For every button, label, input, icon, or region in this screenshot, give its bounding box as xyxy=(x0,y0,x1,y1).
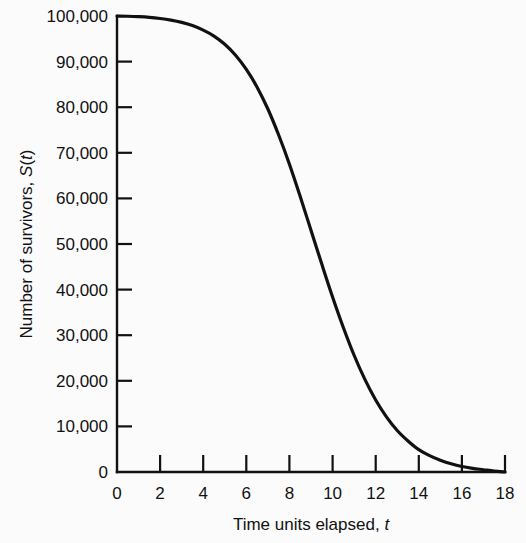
y-axis-title-symbol: S xyxy=(17,165,36,177)
survival-curve-line xyxy=(117,16,505,472)
y-tick-labels: 100,000 90,000 80,000 70,000 60,000 50,0… xyxy=(47,7,108,482)
x-axis-title: Time units elapsed, t xyxy=(233,515,391,534)
x-axis-title-symbol: t xyxy=(384,515,390,534)
y-tick-label: 100,000 xyxy=(47,7,108,26)
y-tick-label: 40,000 xyxy=(56,281,108,300)
x-tick-label: 4 xyxy=(198,484,207,503)
y-tick-label: 80,000 xyxy=(56,98,108,117)
y-tick-label: 10,000 xyxy=(56,417,108,436)
chart-canvas: 100,000 90,000 80,000 70,000 60,000 50,0… xyxy=(0,0,526,543)
y-axis-title-text: Number of survivors, xyxy=(17,177,36,339)
y-tick-label: 90,000 xyxy=(56,53,108,72)
y-tick-label: 50,000 xyxy=(56,235,108,254)
survival-curve-figure: 100,000 90,000 80,000 70,000 60,000 50,0… xyxy=(0,0,526,543)
y-tick-label: 70,000 xyxy=(56,144,108,163)
x-tick-labels: 0 2 4 6 8 10 12 14 16 18 xyxy=(112,484,514,503)
y-tick-label: 0 xyxy=(99,463,108,482)
x-tick-label: 6 xyxy=(242,484,251,503)
x-tick-label: 14 xyxy=(409,484,428,503)
x-tick-label: 16 xyxy=(452,484,471,503)
y-tick-label: 20,000 xyxy=(56,372,108,391)
x-tick-label: 10 xyxy=(323,484,342,503)
x-tick-label: 8 xyxy=(285,484,294,503)
x-axis-title-text: Time units elapsed, xyxy=(233,515,385,534)
x-tick-label: 12 xyxy=(366,484,385,503)
y-axis-title-paren-close: ) xyxy=(17,150,36,156)
y-axis-title: Number of survivors, S(t) xyxy=(17,150,36,339)
y-tick-label: 30,000 xyxy=(56,326,108,345)
y-tick-marks xyxy=(117,62,132,427)
x-tick-label: 2 xyxy=(155,484,164,503)
x-tick-label: 18 xyxy=(496,484,515,503)
x-tick-label: 0 xyxy=(112,484,121,503)
y-tick-label: 60,000 xyxy=(56,189,108,208)
